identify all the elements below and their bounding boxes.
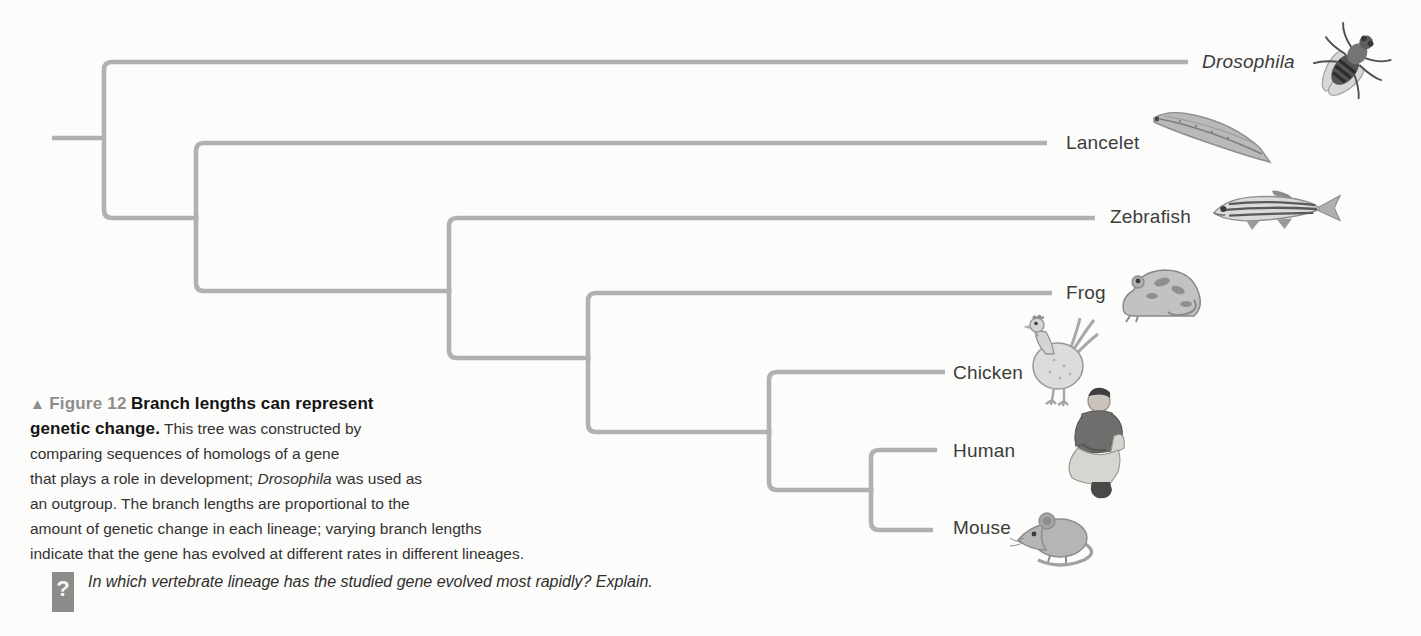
figure-question-text: In which vertebrate lineage has the stud… (88, 573, 738, 591)
taxon-label-frog: Frog (1066, 282, 1106, 304)
caption-line7: indicate that the gene has evolved at di… (30, 541, 690, 566)
figure-marker-triangle: ▲ (30, 395, 45, 412)
caption-line6: amount of genetic change in each lineage… (30, 516, 690, 541)
tree-branch-drosophila-clade (104, 62, 1188, 218)
human-image (1052, 386, 1144, 506)
tree-branch-chicken-clade (769, 372, 945, 490)
taxon-label-lancelet: Lancelet (1066, 132, 1139, 154)
caption-line4-post: was used as (336, 470, 422, 487)
question-mark-icon: ? (52, 572, 74, 612)
taxon-label-zebrafish: Zebrafish (1110, 206, 1191, 228)
lancelet-image (1146, 104, 1276, 168)
taxon-label-chicken: Chicken (953, 362, 1023, 384)
figure-caption: ▲ Figure 12 Branch lengths can represent… (30, 391, 690, 566)
caption-line4-pre: that plays a role in development; (30, 470, 253, 487)
caption-line4-drosophila: Drosophila (257, 470, 331, 487)
caption-line5: an outgroup. The branch lengths are prop… (30, 491, 690, 516)
mouse-image (1010, 500, 1102, 568)
caption-line2: This tree was constructed by (164, 420, 361, 437)
fruit-fly-image (1303, 20, 1398, 105)
taxon-label-mouse: Mouse (953, 517, 1011, 539)
caption-line3: comparing sequences of homologs of a gen… (30, 441, 690, 466)
tree-branch-zebrafish-clade (449, 218, 1095, 358)
figure-title-part2: genetic change. (30, 419, 160, 438)
taxon-label-human: Human (953, 440, 1015, 462)
tree-branch-human-mouse-clade (871, 450, 937, 530)
figure-title-part1: Branch lengths can represent (131, 394, 374, 413)
frog-image (1116, 260, 1206, 324)
figure-number-label: Figure 12 (49, 394, 126, 413)
taxon-label-drosophila: Drosophila (1202, 51, 1295, 73)
zebrafish-image (1208, 184, 1342, 234)
textbook-figure-page: Drosophila Lancelet Zebrafish Frog Chick… (0, 0, 1421, 636)
